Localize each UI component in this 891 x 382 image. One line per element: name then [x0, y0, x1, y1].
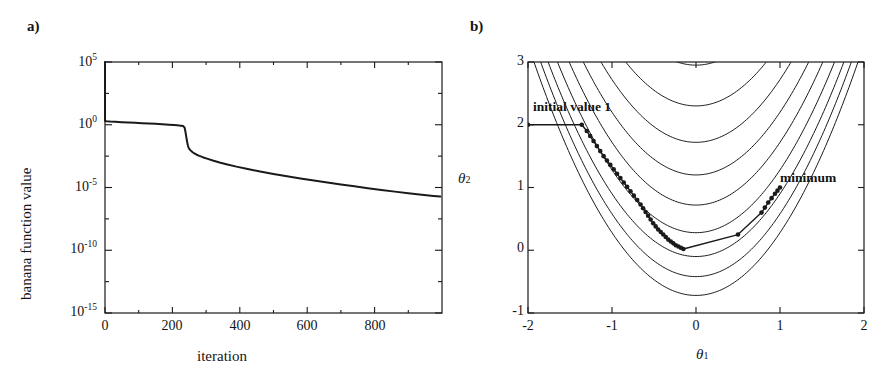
- trajectory-marker: [598, 149, 603, 154]
- trajectory-marker: [778, 185, 783, 190]
- contour-line-5: [567, 26, 826, 175]
- trajectory-marker: [588, 134, 593, 139]
- trajectory-marker: [625, 185, 630, 190]
- trajectory-marker: [601, 154, 606, 159]
- trajectory-marker: [621, 180, 626, 185]
- panel-a-plot: [0, 0, 446, 382]
- trajectory-marker: [766, 200, 771, 205]
- trajectory-marker: [618, 176, 623, 181]
- figure-root: a) 105 100 10-5 10-10 10-15 0 200 400 60…: [0, 0, 891, 382]
- panel-a-series-line: [105, 62, 440, 197]
- trajectory-marker: [769, 196, 774, 201]
- trajectory-marker: [681, 247, 686, 252]
- panel-b: b) 3 2 1 0 -1 -2 -1 0 1 2 θ1 θ2 initial …: [446, 0, 891, 382]
- trajectory-marker: [605, 158, 610, 163]
- panel-a: a) 105 100 10-5 10-10 10-15 0 200 400 60…: [0, 0, 446, 382]
- trajectory-marker: [648, 217, 653, 222]
- trajectory-marker: [595, 144, 600, 149]
- trajectory-marker: [585, 129, 590, 134]
- contour-line-2: [535, 25, 858, 256]
- trajectory-marker: [759, 210, 764, 215]
- trajectory-marker: [632, 193, 637, 198]
- trajectory-marker: [611, 167, 616, 172]
- panel-b-ticks: [528, 62, 864, 313]
- trajectory-marker: [635, 198, 640, 203]
- contour-line-8: [629, 25, 763, 65]
- trajectory-marker: [615, 171, 620, 176]
- trajectory-marker: [736, 232, 741, 237]
- panel-a-ticks: [105, 62, 442, 313]
- trajectory-marker: [628, 189, 633, 194]
- panel-b-axes-frame: [528, 62, 864, 313]
- trajectory-marker: [608, 163, 613, 168]
- trajectory-marker: [641, 206, 646, 211]
- trajectory-marker: [591, 139, 596, 144]
- trajectory-marker: [763, 205, 768, 210]
- panel-b-plot: [446, 0, 891, 382]
- trajectory-line: [528, 125, 780, 249]
- trajectory-marker: [579, 122, 584, 127]
- trajectory-marker: [638, 202, 643, 207]
- contour-line-3: [543, 25, 849, 233]
- contour-line-4: [555, 28, 837, 205]
- trajectory-marker: [643, 210, 648, 215]
- trajectory-marker: [646, 213, 651, 218]
- contour-line-6: [582, 26, 810, 142]
- panel-a-axes-frame: [105, 62, 442, 313]
